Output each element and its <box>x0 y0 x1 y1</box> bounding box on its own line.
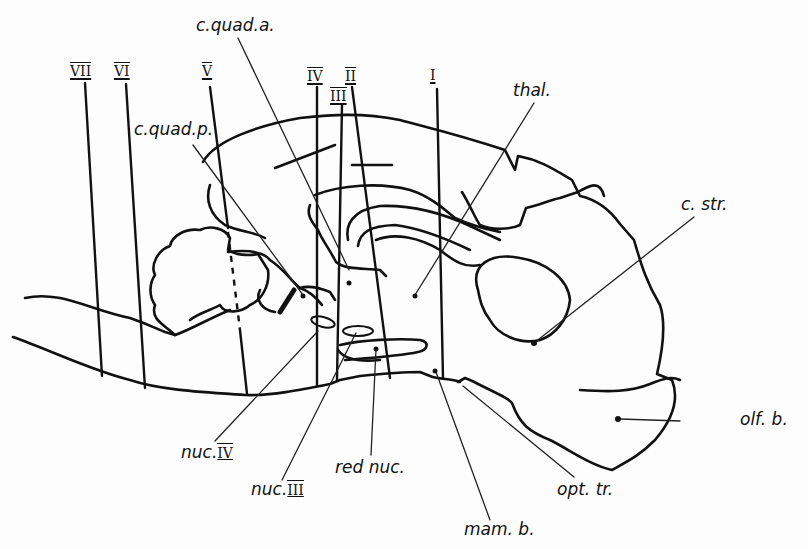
brainstem-lower-outline <box>13 337 460 395</box>
leader-opt-tr <box>463 386 574 477</box>
leader-mam-b <box>436 372 490 520</box>
midbrain-curve-3 <box>258 290 275 312</box>
section-marker-I: I <box>430 67 436 82</box>
section-line-III <box>337 105 342 380</box>
section-marker-VII: VII <box>70 62 91 78</box>
section-marker-III: III <box>330 87 347 103</box>
label-nuc-IV: nuc.IV <box>181 444 233 461</box>
dot-olf-b <box>615 416 621 422</box>
ventricle-arc-4 <box>376 236 480 265</box>
dot-c-str <box>531 340 537 346</box>
leader-nuc-IV <box>215 331 318 441</box>
cortex-inner-line <box>462 185 604 228</box>
label-c-str: c. str. <box>681 196 728 213</box>
leader-c-str <box>534 217 694 343</box>
section-marker-V: V <box>202 62 212 78</box>
label-olf-b: olf. b. <box>740 411 788 428</box>
nucleus-III-oval <box>343 326 373 336</box>
nucleus-IV-oval <box>310 314 336 330</box>
label-mam-b: mam. b. <box>464 521 535 538</box>
section-marker-II: II <box>345 67 356 83</box>
midbrain-curve-1 <box>208 185 265 238</box>
section-marker-VI: VI <box>114 62 130 78</box>
dot-c-quad-a <box>347 281 352 286</box>
dot-thal <box>413 294 418 299</box>
leader-olf-b <box>620 419 680 421</box>
dot-c-quad-p <box>301 294 306 299</box>
olfactory-bulb-line <box>580 378 680 391</box>
label-c-quad-a: c.quad.a. <box>196 17 275 34</box>
dot-red-nuc <box>374 347 379 352</box>
label-opt-tr: opt. tr. <box>557 481 613 498</box>
leader-c-quad-p <box>193 145 303 295</box>
label-nuc-III: nuc.III <box>251 481 304 498</box>
midbrain-curve-2 <box>228 251 322 305</box>
sulcus-line-1 <box>275 145 335 168</box>
section-marker-IV: IV <box>307 67 323 83</box>
corpus-striatum-oval <box>476 257 570 342</box>
label-c-quad-p: c.quad.p. <box>134 121 213 138</box>
section-line-V-lower <box>240 330 247 394</box>
brain-section-diagram: VII VI V IV III II I c.quad.a. c.quad.p.… <box>0 0 808 549</box>
label-thal: thal. <box>513 82 551 99</box>
section-line-VII <box>85 83 102 376</box>
label-nuc-IV-numeral: IV <box>217 443 233 461</box>
section-line-V-dashed <box>228 232 240 330</box>
midbrain-thick-stroke <box>280 290 294 312</box>
label-red-nuc: red nuc. <box>335 459 405 476</box>
label-nuc-III-numeral: III <box>287 480 304 498</box>
label-nuc-III-prefix: nuc. <box>251 479 287 499</box>
leader-red-nuc <box>371 349 376 455</box>
section-line-V <box>210 87 228 228</box>
red-nucleus-outline <box>340 339 427 360</box>
label-nuc-IV-prefix: nuc. <box>181 442 217 462</box>
dot-mam-b <box>433 369 438 374</box>
ventricle-arc-3 <box>358 225 470 250</box>
